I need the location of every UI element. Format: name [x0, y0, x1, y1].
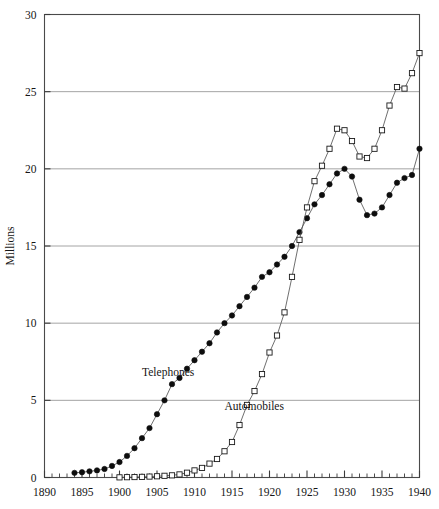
data-point	[87, 469, 92, 474]
data-point	[207, 461, 212, 466]
data-point	[394, 84, 399, 89]
data-point	[139, 435, 144, 440]
data-point	[349, 174, 354, 179]
series-telephones	[72, 146, 422, 476]
data-point	[132, 474, 137, 479]
data-point	[252, 388, 257, 393]
y-tick-label-25: 25	[25, 86, 37, 98]
data-point	[327, 182, 332, 187]
data-point	[282, 254, 287, 259]
data-point	[132, 445, 137, 450]
data-point	[364, 155, 369, 160]
data-point	[274, 333, 279, 338]
data-point	[154, 474, 159, 479]
data-point	[117, 475, 122, 480]
data-point	[169, 381, 174, 386]
data-point	[282, 310, 287, 315]
data-point	[402, 86, 407, 91]
x-tick-label-1920: 1920	[258, 486, 281, 498]
data-point	[207, 341, 212, 346]
data-point	[409, 71, 414, 76]
data-point	[139, 474, 144, 479]
data-point	[417, 146, 422, 151]
data-point	[342, 128, 347, 133]
data-point	[387, 192, 392, 197]
data-point	[199, 349, 204, 354]
data-point	[162, 398, 167, 403]
data-point	[312, 202, 317, 207]
data-point	[259, 274, 264, 279]
data-point	[327, 146, 332, 151]
data-point	[214, 456, 219, 461]
data-point	[319, 163, 324, 168]
y-axis-title: Millions	[4, 226, 16, 266]
series-automobiles	[117, 50, 422, 479]
x-tick-label-1940: 1940	[408, 486, 431, 498]
data-point	[222, 449, 227, 454]
data-point	[349, 138, 354, 143]
data-point	[267, 350, 272, 355]
data-point	[229, 439, 234, 444]
data-point	[237, 422, 242, 427]
data-point	[409, 172, 414, 177]
x-axis-tick-labels: 1890189519001905191019151920192519301935…	[33, 486, 431, 498]
data-point	[147, 474, 152, 479]
x-tick-label-1890: 1890	[33, 486, 56, 498]
data-point	[117, 459, 122, 464]
data-point	[394, 180, 399, 185]
data-point	[417, 50, 422, 55]
x-tick-label-1905: 1905	[146, 486, 169, 498]
data-point	[372, 211, 377, 216]
gridlines-group	[45, 92, 420, 401]
series-label-telephones: Telephones	[142, 366, 195, 379]
data-point	[237, 303, 242, 308]
data-point	[79, 470, 84, 475]
x-tick-label-1925: 1925	[296, 486, 319, 498]
data-point	[162, 473, 167, 478]
y-tick-label-0: 0	[31, 472, 37, 484]
x-tick-label-1910: 1910	[183, 486, 206, 498]
data-point	[342, 166, 347, 171]
y-tick-label-10: 10	[25, 317, 37, 329]
data-point	[214, 330, 219, 335]
data-point	[192, 358, 197, 363]
data-point	[289, 274, 294, 279]
data-point	[267, 270, 272, 275]
data-point	[379, 205, 384, 210]
y-tick-label-15: 15	[25, 240, 37, 252]
data-point	[334, 126, 339, 131]
y-tick-label-20: 20	[25, 163, 37, 175]
data-point	[274, 262, 279, 267]
data-point	[192, 468, 197, 473]
data-point	[319, 192, 324, 197]
data-point	[334, 171, 339, 176]
data-point	[244, 294, 249, 299]
data-point	[229, 313, 234, 318]
series-label-automobiles: Automobiles	[225, 400, 285, 412]
y-axis-title-group: Millions	[4, 226, 16, 266]
x-tick-label-1930: 1930	[333, 486, 356, 498]
chart-container: 051015202530 189018951900190519101915192…	[0, 0, 439, 509]
data-point	[379, 128, 384, 133]
data-point	[72, 470, 77, 475]
data-point	[94, 468, 99, 473]
y-axis-tick-labels: 051015202530	[25, 9, 37, 484]
data-point	[357, 197, 362, 202]
data-point	[147, 425, 152, 430]
x-tick-label-1900: 1900	[108, 486, 131, 498]
data-point	[154, 412, 159, 417]
series-line-automobiles	[120, 53, 420, 477]
data-point	[364, 212, 369, 217]
y-tick-label-5: 5	[31, 394, 37, 406]
data-point	[169, 473, 174, 478]
data-point	[387, 103, 392, 108]
data-series-group	[72, 50, 422, 479]
data-point	[177, 472, 182, 477]
data-point	[222, 320, 227, 325]
data-point	[312, 179, 317, 184]
data-point	[372, 146, 377, 151]
x-tick-label-1915: 1915	[221, 486, 244, 498]
data-point	[184, 470, 189, 475]
data-point	[297, 237, 302, 242]
x-tick-label-1935: 1935	[371, 486, 394, 498]
